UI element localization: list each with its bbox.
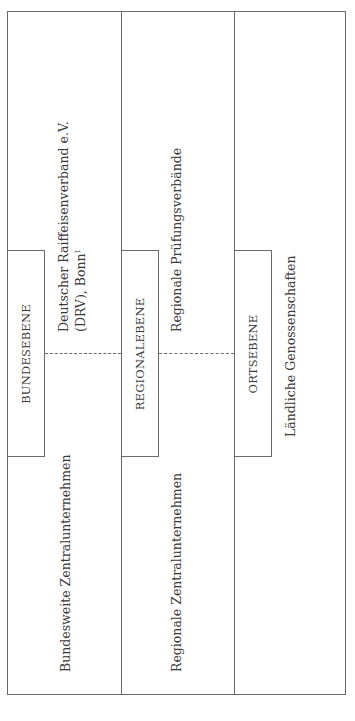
level-box-bundesebene: BUNDESEBENE [7, 250, 45, 457]
enterprises-regional: Regionale Zentralunternehmen [169, 473, 186, 672]
level-box-regionalebene: REGIONALEBENE [121, 250, 159, 457]
footnote-marker: 1 [74, 249, 82, 253]
dashed-connector-1 [45, 353, 121, 354]
level-label-bundesebene: BUNDESEBENE [19, 304, 33, 404]
association-regional: Regionale Prüfungsverbände [169, 148, 186, 332]
dashed-connector-2 [159, 353, 234, 354]
local-cooperatives-text: Ländliche Genossenschaften [283, 256, 298, 437]
level-label-regionalebene: REGIONALEBENE [133, 297, 147, 410]
association-drv: Deutscher Raiffeisenverband e.V. (DRV), … [56, 121, 90, 332]
level-label-ortsebene: ORTSEBENE [246, 314, 260, 393]
association-drv-line2: (DRV), Bonn [73, 253, 88, 332]
enterprises-bundesweit-text: Bundesweite Zentralunternehmen [58, 455, 73, 672]
association-drv-line2-wrap: (DRV), Bonn1 [73, 121, 90, 332]
enterprises-bundesweit: Bundesweite Zentralunternehmen [58, 455, 75, 672]
association-regional-text: Regionale Prüfungsverbände [169, 148, 184, 332]
association-drv-line1: Deutscher Raiffeisenverband e.V. [56, 121, 73, 332]
level-box-ortsebene: ORTSEBENE [234, 250, 272, 457]
enterprises-regional-text: Regionale Zentralunternehmen [169, 473, 184, 672]
local-cooperatives: Ländliche Genossenschaften [283, 256, 300, 437]
